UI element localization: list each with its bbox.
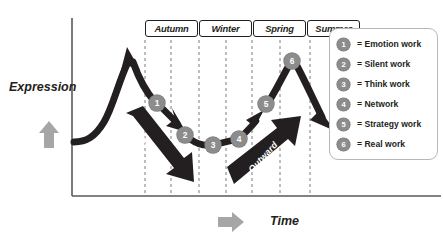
legend-item-3[interactable]: 3 = Think work <box>330 74 437 94</box>
legend-label-2: = Silent work <box>357 59 410 69</box>
up-arrow-icon <box>39 121 59 148</box>
legend-label-3: = Think work <box>357 79 410 89</box>
curve-node-2[interactable]: 2 <box>177 127 193 143</box>
legend-item-2[interactable]: 2 = Silent work <box>330 54 437 74</box>
inward-block-arrow <box>126 106 194 182</box>
legend-item-1[interactable]: 1 = Emotion work <box>330 34 437 54</box>
curve-segment-rise-3 <box>271 67 288 98</box>
x-axis-label: Time <box>270 214 299 228</box>
legend-label-5: = Strategy work <box>357 119 421 129</box>
curve-node-6[interactable]: 6 <box>284 53 300 69</box>
legend-bullet-3: 3 <box>337 78 350 91</box>
season-box-winter[interactable]: Winter <box>199 20 252 37</box>
legend-bullet-4: 4 <box>337 98 350 111</box>
season-box-spring[interactable]: Spring <box>253 20 306 37</box>
legend-item-4[interactable]: 4 = Network <box>330 94 437 114</box>
legend-bullet-2: 2 <box>337 58 350 71</box>
legend-bullet-1: 1 <box>337 38 350 51</box>
legend-item-6[interactable]: 6 = Real work <box>330 134 437 154</box>
curve-node-5[interactable]: 5 <box>258 96 274 112</box>
legend-item-5[interactable]: 5 = Strategy work <box>330 114 437 134</box>
y-axis-label: Expression <box>9 80 76 94</box>
legend-label-4: = Network <box>357 99 398 109</box>
legend-label-1: = Emotion work <box>357 39 421 49</box>
curve-segment-rise-1 <box>74 62 128 142</box>
curve-node-1[interactable]: 1 <box>149 95 165 111</box>
legend-panel: 1 = Emotion work 2 = Silent work 3 = Thi… <box>329 28 438 160</box>
legend-bullet-6: 6 <box>337 138 350 151</box>
curve-node-4[interactable]: 4 <box>231 131 247 147</box>
legend-label-6: = Real work <box>357 139 405 149</box>
diagram-canvas: .curve { fill:none; stroke:#231f20; stro… <box>0 0 443 241</box>
legend-bullet-5: 5 <box>337 118 350 131</box>
right-arrow-icon <box>218 212 244 232</box>
season-box-autumn[interactable]: Autumn <box>145 20 198 37</box>
curve-node-3[interactable]: 3 <box>205 137 221 153</box>
